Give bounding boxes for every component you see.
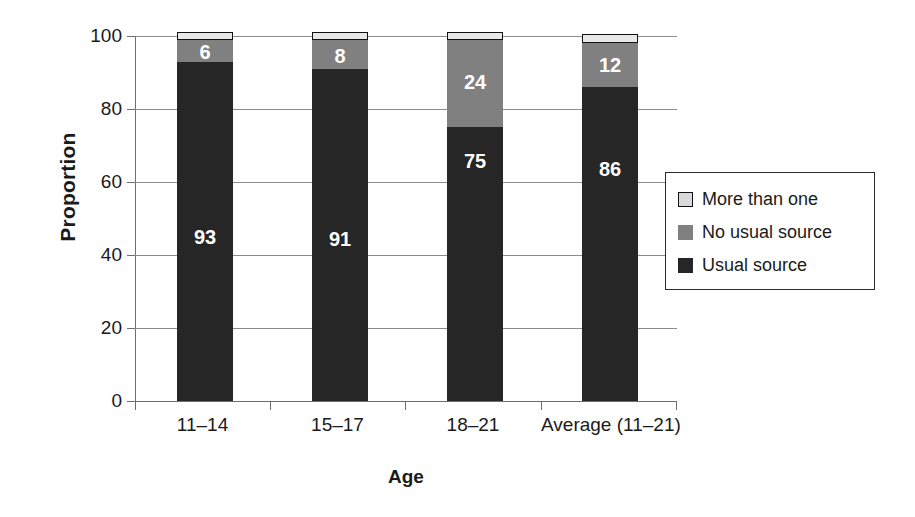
x-tick-label-18-21: 18–21	[405, 414, 541, 436]
chart-legend: More than one No usual source Usual sour…	[665, 172, 875, 290]
legend-item-more-than-one[interactable]: More than one	[678, 183, 874, 216]
x-axis-title: Age	[135, 466, 677, 488]
x-tick-mark-2	[405, 402, 406, 410]
x-tick-mark-3	[541, 402, 542, 410]
no-usual-source-swatch-icon	[678, 225, 693, 240]
bar-value-label-usual-average: 86	[582, 159, 638, 179]
x-tick-label-average: Average (11–21)	[541, 414, 677, 436]
bar-segment-more-than-one-average[interactable]	[582, 34, 638, 43]
bar-value-label-nousual-18-21: 24	[447, 72, 503, 92]
legend-label-more-than-one: More than one	[702, 189, 818, 210]
y-tick-label-40: 40	[50, 245, 122, 264]
bar-segment-usual-source-average[interactable]: 86	[582, 87, 638, 401]
bar-value-label-usual-18-21: 75	[447, 151, 503, 171]
bar-group-11-14[interactable]: 93 6	[177, 36, 233, 401]
y-tick-label-80: 80	[50, 99, 122, 118]
x-tick-mark-0	[135, 402, 136, 410]
bar-segment-usual-source-18-21[interactable]: 75	[447, 127, 503, 401]
bar-segment-no-usual-source-18-21[interactable]: 24	[447, 40, 503, 128]
usual-source-swatch-icon	[678, 258, 693, 273]
plot-area: 93 6 91 8 75 24	[135, 36, 677, 401]
bar-segment-usual-source-15-17[interactable]: 91	[312, 69, 368, 401]
legend-item-no-usual-source[interactable]: No usual source	[678, 216, 874, 249]
bar-group-average-11-21[interactable]: 86 12	[582, 36, 638, 401]
y-tick-label-60: 60	[50, 172, 122, 191]
legend-label-usual-source: Usual source	[702, 255, 807, 276]
y-tick-mark-80	[127, 109, 135, 110]
bar-segment-no-usual-source-15-17[interactable]: 8	[312, 40, 368, 69]
legend-item-usual-source[interactable]: Usual source	[678, 249, 874, 282]
x-tick-label-11-14: 11–14	[135, 414, 270, 436]
bar-segment-no-usual-source-11-14[interactable]: 6	[177, 40, 233, 62]
bar-group-18-21[interactable]: 75 24	[447, 36, 503, 401]
x-tick-mark-1	[270, 402, 271, 410]
bar-group-15-17[interactable]: 91 8	[312, 36, 368, 401]
bar-segment-more-than-one-11-14[interactable]	[177, 32, 233, 40]
x-axis-line	[135, 401, 677, 402]
y-tick-label-100: 100	[50, 26, 122, 45]
bar-segment-usual-source-11-14[interactable]: 93	[177, 62, 233, 401]
bar-value-label-nousual-11-14: 6	[177, 42, 233, 62]
bar-value-label-usual-15-17: 91	[312, 229, 368, 249]
bar-value-label-nousual-15-17: 8	[312, 46, 368, 66]
bar-segment-more-than-one-15-17[interactable]	[312, 32, 368, 40]
y-tick-mark-100	[127, 36, 135, 37]
y-tick-label-20: 20	[50, 318, 122, 337]
y-axis-tick-labels: 100 80 60 40 20 0	[38, 0, 122, 517]
legend-label-no-usual-source: No usual source	[702, 222, 832, 243]
y-tick-mark-0	[127, 401, 135, 402]
y-tick-label-0: 0	[50, 391, 122, 410]
more-than-one-swatch-icon	[678, 192, 693, 207]
bar-value-label-nousual-average: 12	[582, 55, 638, 75]
bar-segment-more-than-one-18-21[interactable]	[447, 32, 503, 40]
y-tick-mark-20	[127, 328, 135, 329]
x-tick-mark-4	[676, 402, 677, 410]
bar-segment-no-usual-source-average[interactable]: 12	[582, 43, 638, 87]
stacked-bar-chart: Proportion 100 80 60 40 20 0 93 6	[0, 0, 915, 517]
y-tick-mark-60	[127, 182, 135, 183]
bar-value-label-usual-11-14: 93	[177, 227, 233, 247]
y-tick-mark-40	[127, 255, 135, 256]
x-tick-label-15-17: 15–17	[270, 414, 405, 436]
